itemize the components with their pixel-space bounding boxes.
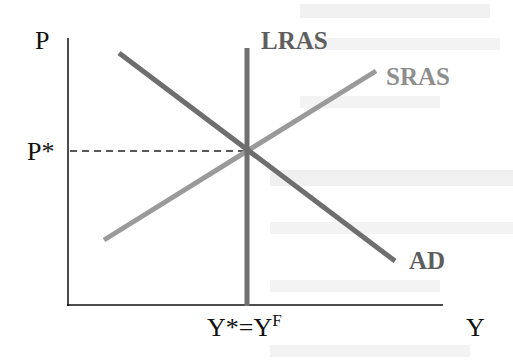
x-axis-label: Y [466,313,485,342]
ad-label: AD [409,247,445,274]
lras-label: LRAS [261,27,328,54]
y-axis-label: P [35,26,49,55]
ad-as-chart: P P* LRAS SRAS AD Y*=YF Y [0,0,513,362]
sras-label: SRAS [386,63,450,90]
y-star-superscript: F [272,311,281,330]
p-star-label: P* [27,137,54,166]
y-star-label: Y*=YF [207,311,282,342]
